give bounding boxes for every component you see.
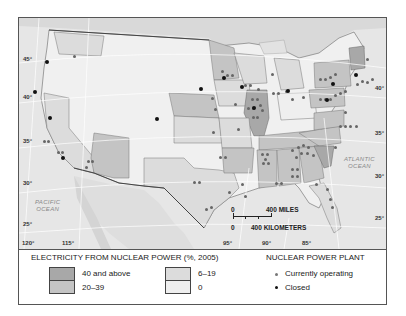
operating-plant-dot <box>334 73 337 76</box>
operating-plant-dot <box>339 125 342 128</box>
longitude-label: 120° <box>22 240 34 246</box>
operating-plant-dot <box>266 153 269 156</box>
scale-km-label: 400 KILOMETERS <box>251 224 306 231</box>
closed-plant-dot <box>325 98 329 102</box>
operating-plant-dot <box>306 152 309 155</box>
operating-plant-dot <box>262 162 265 165</box>
operating-plant-dot <box>85 166 88 169</box>
operating-plant-dot <box>296 175 299 178</box>
operating-plant-dot <box>319 98 322 101</box>
legend-swatch-40-above <box>49 267 75 281</box>
latitude-label: 35° <box>23 138 32 144</box>
operating-plant-dot <box>344 125 347 128</box>
operating-plant-dot <box>339 92 342 95</box>
operating-plant-dot <box>334 94 337 97</box>
closed-plant-dot <box>199 87 203 91</box>
operating-plant-dot <box>291 149 294 152</box>
map-graphic <box>19 18 386 249</box>
legend-swatch-6-19 <box>165 267 191 281</box>
operating-plant-dot <box>366 81 369 84</box>
choropleth-legend-title: ELECTRICITY FROM NUCLEAR POWER (%, 2005) <box>31 253 218 262</box>
scale-miles-label: 400 MILES <box>266 206 299 213</box>
legend: ELECTRICITY FROM NUCLEAR POWER (%, 2005)… <box>19 250 386 304</box>
operating-plant-dot <box>257 88 260 91</box>
operating-plant-dot <box>291 168 294 171</box>
latitude-label: 25° <box>23 221 32 227</box>
operating-plant-dot <box>212 131 215 134</box>
operating-plant-dot <box>349 125 352 128</box>
operating-plant-dot <box>300 152 303 155</box>
closed-plant-dot <box>45 60 49 64</box>
operating-plant-dot <box>193 181 196 184</box>
operating-plant-dot <box>312 154 315 157</box>
operating-plant-dot <box>57 151 60 154</box>
operating-plant-dot <box>241 183 244 186</box>
legend-swatch-0 <box>165 280 191 294</box>
operating-plant-dot <box>331 206 334 209</box>
closed-plant-dot <box>33 90 37 94</box>
operating-plant-dot <box>302 144 305 147</box>
closed-plant-dot <box>48 116 52 120</box>
closed-plant-legend-icon <box>275 286 278 289</box>
operating-plant-dot <box>329 98 332 101</box>
us-map: 45° 40° 35° 30° 25° 40° 35° 30° 25° 120°… <box>19 18 386 250</box>
scale-tick <box>271 213 272 216</box>
operating-plant-dot <box>47 140 50 143</box>
latitude-label: 40° <box>23 94 32 100</box>
latitude-label: 30° <box>23 180 32 186</box>
pacific-ocean-label: PACIFIC OCEAN <box>35 199 60 213</box>
operating-plant-dot <box>224 156 227 159</box>
operating-plant-dot <box>198 181 201 184</box>
operating-plant-dot <box>361 80 364 83</box>
operating-plant-dot <box>271 73 274 76</box>
operating-plant-dot <box>307 146 310 149</box>
operating-plant-dot <box>272 92 275 95</box>
operating-plant-dot <box>219 156 222 159</box>
operating-plant-dot <box>231 74 234 77</box>
legend-label-40-above: 40 and above <box>82 269 131 278</box>
latitude-label-right: 40° <box>375 85 384 91</box>
operating-plant-dot <box>87 160 90 163</box>
operating-plant-dot <box>275 182 278 185</box>
operating-plant-dot <box>264 158 267 161</box>
closed-plant-dot <box>331 82 335 86</box>
scale-line <box>233 216 272 217</box>
operating-plant-dot <box>256 98 259 101</box>
operating-plant-dot <box>326 188 329 191</box>
closed-plant-dot <box>252 106 256 110</box>
operating-plant-legend-icon <box>275 273 278 276</box>
operating-plant-dot <box>267 162 270 165</box>
operating-plant-dot <box>256 116 259 119</box>
closed-plant-dot <box>354 73 358 77</box>
longitude-label: 115° <box>62 240 74 246</box>
latitude-label-right: 30° <box>375 173 384 179</box>
closed-plant-dot <box>155 117 159 121</box>
operating-plant-dot <box>297 146 300 149</box>
operating-plant-dot <box>324 78 327 81</box>
operating-plant-dot <box>247 107 250 110</box>
scale-tick <box>258 216 259 219</box>
closed-plant-dot <box>61 156 65 160</box>
operating-plant-dot <box>251 98 254 101</box>
operating-plant-dot <box>366 58 369 61</box>
operating-plant-dot <box>226 74 229 77</box>
closed-plant-dot <box>222 76 226 80</box>
scale-tick <box>245 216 246 219</box>
operating-plant-dot <box>43 140 46 143</box>
map-figure: 45° 40° 35° 30° 25° 40° 35° 30° 25° 120°… <box>18 17 387 305</box>
operating-plant-dot <box>221 70 224 73</box>
operating-plant-dot <box>61 151 64 154</box>
operating-plant-dot <box>228 191 231 194</box>
legend-label-closed: Closed <box>285 283 310 292</box>
operating-plant-dot <box>291 175 294 178</box>
operating-plant-dot <box>344 90 347 93</box>
operating-plant-dot <box>249 84 252 87</box>
closed-plant-dot <box>286 89 290 93</box>
operating-plant-dot <box>291 98 294 101</box>
operating-plant-dot <box>295 156 298 159</box>
operating-plant-dot <box>211 97 214 100</box>
operating-plant-dot <box>205 208 208 211</box>
plant-legend-title: NUCLEAR POWER PLANT <box>266 253 365 262</box>
operating-plant-dot <box>252 116 255 119</box>
operating-plant-dot <box>355 125 358 128</box>
